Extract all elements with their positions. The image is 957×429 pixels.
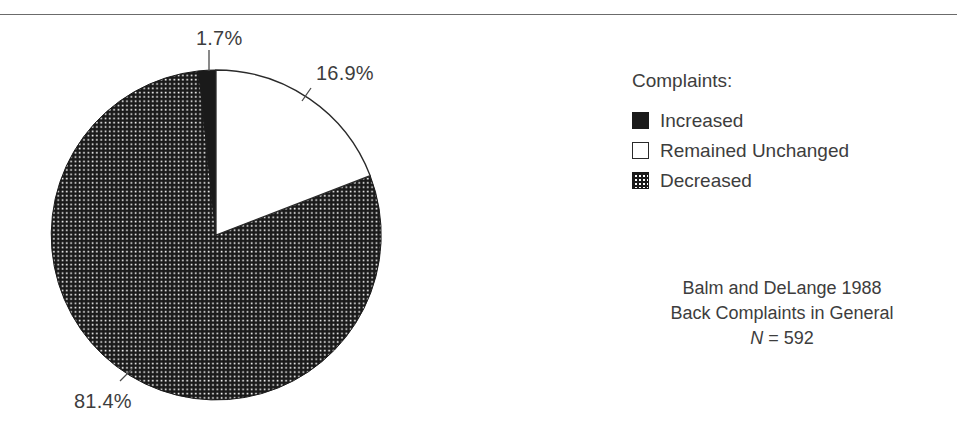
- pie-value-label-increased: 1.7%: [196, 27, 242, 50]
- caption-source: Balm and DeLange 1988: [632, 276, 932, 301]
- sample-size-equals: =: [768, 328, 779, 348]
- sample-size-value: 592: [784, 328, 814, 348]
- legend-item-label: Remained Unchanged: [660, 141, 849, 160]
- legend-item-increased[interactable]: Increased: [632, 105, 932, 135]
- chart-caption: Balm and DeLange 1988 Back Complaints in…: [632, 276, 932, 351]
- caption-sample-size: N = 592: [632, 326, 932, 351]
- dotted-swatch-icon: [632, 172, 649, 189]
- caption-subject: Back Complaints in General: [632, 301, 932, 326]
- legend-item-label: Increased: [660, 111, 743, 130]
- pie-chart-svg: [0, 0, 520, 429]
- pie-value-label-unchanged: 16.9%: [316, 62, 374, 85]
- sample-size-symbol: N: [750, 328, 763, 348]
- legend-item-label: Decreased: [660, 171, 752, 190]
- pie-value-label-decreased: 81.4%: [74, 390, 132, 413]
- legend-item-remained-unchanged[interactable]: Remained Unchanged: [632, 135, 932, 165]
- solid-black-swatch-icon: [632, 112, 649, 129]
- chart-legend: Complaints: Increased Remained Unchanged…: [632, 70, 932, 195]
- legend-title: Complaints:: [632, 70, 932, 92]
- legend-item-decreased[interactable]: Decreased: [632, 165, 932, 195]
- pie-chart: 1.7% 16.9% 81.4%: [0, 0, 520, 429]
- pie-chart-figure: 1.7% 16.9% 81.4% Complaints: Increased R…: [0, 0, 957, 429]
- white-outlined-swatch-icon: [632, 142, 649, 159]
